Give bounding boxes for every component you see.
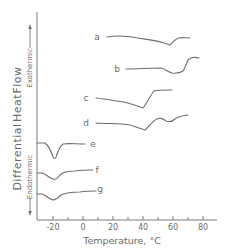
dsc-chart: -20 0 20 40 60 80 Temperature, °C Flow H… (0, 0, 228, 252)
exothermic-arrow-head-icon (28, 24, 31, 29)
curve-label-e: e (90, 139, 96, 149)
y-label-endothermic: Endothermic (26, 155, 34, 200)
curve-label-d: d (83, 118, 89, 128)
x-tick-label: 0 (80, 223, 85, 232)
y-label-differential: Differential (11, 123, 24, 190)
curve-label-c: c (84, 93, 89, 103)
curve-b (126, 57, 199, 73)
curve-c (96, 90, 172, 108)
curve-f (37, 170, 93, 179)
x-tick-label: 60 (168, 223, 178, 232)
x-tick-label: 20 (108, 223, 118, 232)
curve-label-a: a (94, 32, 100, 42)
y-label-heat: Heat (11, 94, 24, 122)
x-ticks (53, 216, 203, 220)
curve-d (96, 115, 188, 130)
y-label-flow: Flow (11, 66, 24, 93)
y-label-exothermic: Exothermic (26, 48, 34, 88)
endothermic-arrow-head-icon (28, 211, 31, 216)
curve-g (37, 191, 96, 200)
x-tick-label: 40 (138, 223, 148, 232)
curve-label-f: f (95, 165, 99, 175)
curve-a (107, 36, 190, 45)
x-axis-title: Temperature, °C (82, 235, 161, 246)
x-tick-label: -20 (46, 223, 59, 232)
x-tick-label: 80 (198, 223, 208, 232)
curve-e (37, 143, 85, 159)
x-tick-labels: -20 0 20 40 60 80 (46, 223, 208, 232)
curve-label-b: b (114, 64, 120, 74)
curve-label-g: g (97, 184, 103, 194)
